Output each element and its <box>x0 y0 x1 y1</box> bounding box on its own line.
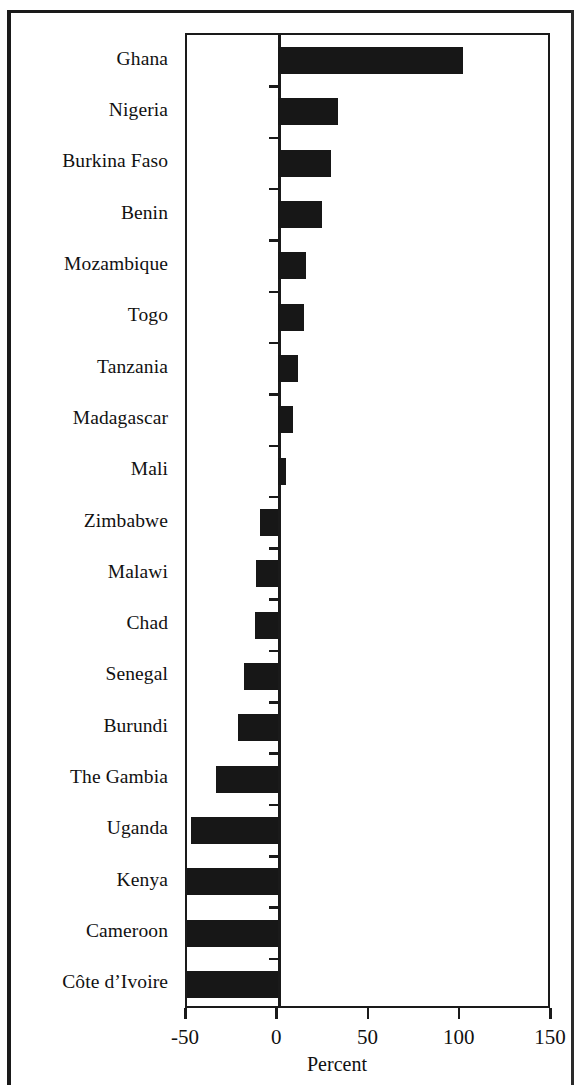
category-label: Benin <box>0 203 168 223</box>
category-tick <box>269 958 278 961</box>
bar <box>278 304 304 331</box>
bar <box>278 150 331 177</box>
bar <box>278 98 338 125</box>
category-label: Mali <box>0 459 168 479</box>
bar <box>278 252 305 279</box>
bar <box>278 458 285 485</box>
bar <box>278 406 293 433</box>
category-tick <box>269 752 278 755</box>
category-tick <box>269 85 278 88</box>
value-tick-label: 100 <box>419 1027 499 1048</box>
category-tick <box>269 445 278 448</box>
bar-chart: GhanaNigeriaBurkina FasoBeninMozambiqueT… <box>0 0 579 1090</box>
value-axis-ticks <box>0 1008 579 1020</box>
category-label: Mozambique <box>0 254 168 274</box>
category-label: Uganda <box>0 818 168 838</box>
bar <box>244 663 279 690</box>
category-tick <box>269 496 278 499</box>
category-label: Chad <box>0 613 168 633</box>
bar <box>191 817 279 844</box>
category-tick <box>269 906 278 909</box>
value-tick <box>275 1008 278 1019</box>
category-tick <box>269 239 278 242</box>
category-label: Burkina Faso <box>0 151 168 171</box>
bar <box>238 714 278 741</box>
bar <box>187 868 278 895</box>
value-tick-label: 50 <box>328 1027 408 1048</box>
category-tick <box>269 291 278 294</box>
category-tick <box>269 598 278 601</box>
value-tick-label: 0 <box>236 1027 316 1048</box>
value-tick <box>549 1008 552 1019</box>
category-tick <box>269 188 278 191</box>
category-label: The Gambia <box>0 767 168 787</box>
plot-area <box>185 33 550 1008</box>
zero-baseline <box>278 35 281 1008</box>
category-label: Malawi <box>0 562 168 582</box>
category-tick <box>269 137 278 140</box>
bar <box>256 560 278 587</box>
category-tick <box>269 804 278 807</box>
value-axis-title: Percent <box>297 1054 377 1074</box>
bar <box>216 766 278 793</box>
category-label: Côte d’Ivoire <box>0 972 168 992</box>
value-axis-tick-labels: -50050100150 <box>0 1027 579 1057</box>
category-label: Togo <box>0 305 168 325</box>
value-tick-label: -50 <box>145 1027 225 1048</box>
bar <box>278 47 462 74</box>
category-label: Madagascar <box>0 408 168 428</box>
bar <box>278 201 322 228</box>
category-label: Burundi <box>0 716 168 736</box>
value-tick <box>458 1008 461 1019</box>
category-label: Ghana <box>0 49 168 69</box>
category-tick <box>269 393 278 396</box>
category-tick <box>269 855 278 858</box>
category-label: Kenya <box>0 870 168 890</box>
category-tick <box>269 650 278 653</box>
bar <box>260 509 278 536</box>
category-tick <box>269 701 278 704</box>
bar <box>187 971 278 998</box>
category-label: Zimbabwe <box>0 511 168 531</box>
category-tick <box>269 547 278 550</box>
category-label: Cameroon <box>0 921 168 941</box>
category-axis-labels: GhanaNigeriaBurkina FasoBeninMozambiqueT… <box>0 33 168 1008</box>
value-tick-label: 150 <box>510 1027 579 1048</box>
value-tick <box>367 1008 370 1019</box>
category-tick <box>269 342 278 345</box>
category-label: Senegal <box>0 664 168 684</box>
category-label: Nigeria <box>0 100 168 120</box>
bar <box>255 612 279 639</box>
category-label: Tanzania <box>0 357 168 377</box>
figure-root: GhanaNigeriaBurkina FasoBeninMozambiqueT… <box>0 0 579 1090</box>
bar <box>278 355 298 382</box>
value-tick <box>184 1008 187 1019</box>
bar <box>187 920 278 947</box>
